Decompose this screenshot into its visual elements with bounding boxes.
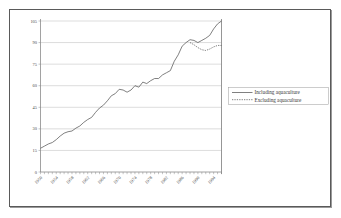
- x-axis-tick-label: 1966: [96, 175, 106, 185]
- x-axis-tick-label: 1958: [65, 175, 75, 185]
- series-line-including-aquaculture: [41, 21, 222, 148]
- x-axis-tick-label: 1978: [144, 175, 154, 185]
- x-axis-tick-label: 1994: [207, 175, 217, 185]
- figure-container: 0153045607590105195019541958196219661970…: [0, 0, 341, 218]
- legend-label-including: Including aquaculture: [255, 89, 301, 95]
- x-axis-tick-label: 1974: [128, 175, 138, 185]
- y-axis-tick-label: 45: [33, 105, 38, 110]
- legend-label-excluding: Excluding aquaculture: [255, 97, 303, 103]
- x-axis-tick-label: 1986: [175, 175, 185, 185]
- chart-plot-area: 0153045607590105195019541958196219661970…: [0, 0, 341, 218]
- x-axis-tick-label: 1962: [81, 175, 91, 185]
- y-axis-tick-label: 0: [35, 170, 38, 175]
- y-axis-tick-label: 105: [30, 19, 37, 24]
- x-axis-tick-label: 1954: [49, 175, 59, 185]
- y-axis-tick-label: 30: [33, 126, 38, 131]
- series-line-excluding-aquaculture: [190, 43, 221, 51]
- y-axis-tick-label: 15: [33, 148, 38, 153]
- y-axis-tick-label: 75: [33, 62, 38, 67]
- x-axis-tick-label: 1982: [159, 175, 169, 185]
- line-chart: 0153045607590105195019541958196219661970…: [0, 0, 341, 218]
- y-axis-tick-label: 60: [33, 83, 38, 88]
- y-axis-tick-label: 90: [33, 40, 38, 45]
- x-axis-tick-label: 1970: [112, 175, 122, 185]
- x-axis-tick-label: 1990: [191, 175, 201, 185]
- x-axis-tick-label: 1950: [33, 175, 43, 185]
